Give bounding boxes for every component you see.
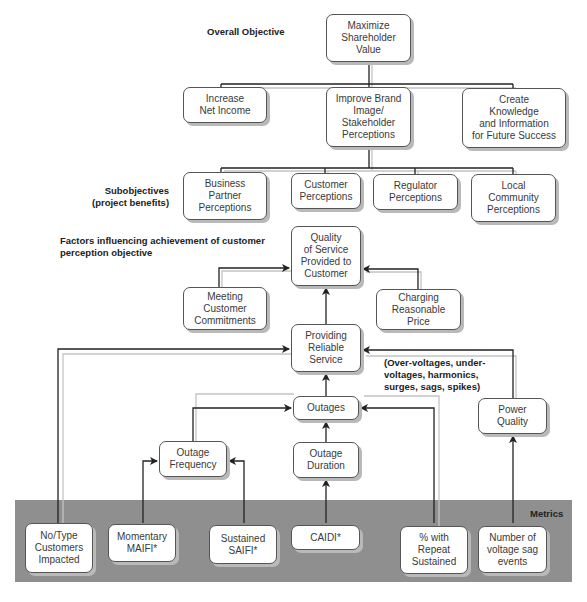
metric-customers-impacted: No/Type Customers Impacted [25,523,93,573]
node-local-community-perceptions: Local Community Perceptions [471,174,556,222]
node-improve-brand-image: Improve Brand Image/ Stakeholder Percept… [326,87,411,147]
metric-voltage-sag-events: Number of voltage sag events [478,526,547,573]
node-create-knowledge: Create Knowledge and Information for Fut… [462,88,566,148]
node-outages: Outages [293,396,359,420]
metric-repeat-sustained: % with Repeat Sustained [400,526,468,574]
metric-sustained-saifi: Sustained SAIFI* [209,525,277,564]
power-quality-note: (Over-voltages, under- voltages, harmoni… [384,357,485,393]
metric-caidi: CAIDI* [291,525,360,550]
factors-label: Factors influencing achievement of custo… [60,235,265,259]
node-maximize-shareholder-value: Maximize Shareholder Value [326,14,411,62]
node-meeting-customer-commitments: Meeting Customer Commitments [183,287,267,330]
node-power-quality: Power Quality [478,398,547,434]
node-customer-perceptions: Customer Perceptions [291,173,361,209]
overall-objective-label: Overall Objective [207,26,285,38]
node-charging-reasonable-price: Charging Reasonable Price [376,289,461,330]
node-business-partner-perceptions: Business Partner Perceptions [183,172,267,220]
node-increase-net-income: Increase Net Income [183,87,267,123]
node-providing-reliable-service: Providing Reliable Service [291,324,361,372]
node-outage-duration: Outage Duration [293,442,359,478]
metric-momentary-maifi: Momentary MAIFI* [108,524,176,562]
subobjectives-label: Subobjectives (project benefits) [92,185,169,209]
node-regulator-perceptions: Regulator Perceptions [373,174,458,210]
metrics-label: Metrics [530,508,563,520]
node-outage-frequency: Outage Frequency [159,441,227,477]
node-quality-of-service: Quality of Service Provided to Customer [291,226,361,286]
